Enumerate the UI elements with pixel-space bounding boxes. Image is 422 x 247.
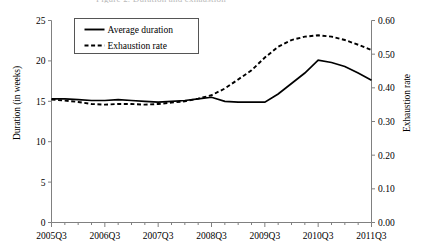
y-axis-right-tick-label: 0.20 (378, 151, 395, 161)
y-axis-right-tick-label: 0.50 (378, 50, 395, 60)
x-axis-tick-label: 2006Q3 (90, 231, 121, 241)
y-axis-left: 0510152025 (36, 16, 52, 228)
x-axis-tick-label: 2011Q3 (356, 231, 387, 241)
y-axis-left-tick-label: 25 (36, 16, 46, 26)
y-axis-left-tick-label: 10 (36, 137, 46, 147)
y-axis-right-tick-label: 0.30 (378, 117, 395, 127)
y-axis-left-tick-label: 0 (41, 218, 46, 228)
y-axis-right-tick-label: 0.40 (378, 83, 395, 93)
y-axis-right: 0.000.100.200.300.400.500.60 (372, 16, 395, 228)
x-axis-tick-label: 2005Q3 (36, 231, 67, 241)
chart-legend: Average durationExhaustion rate (75, 19, 199, 54)
x-axis-tick-label: 2010Q3 (303, 231, 334, 241)
legend-item-label: Average duration (108, 25, 174, 35)
x-axis-tick-label: 2009Q3 (250, 231, 281, 241)
y-axis-left-tick-label: 20 (36, 56, 46, 66)
chart-plot-area: 0510152025 0.000.100.200.300.400.500.60 … (0, 0, 422, 247)
y-axis-left-tick-label: 5 (41, 178, 46, 188)
y-axis-right-tick-label: 0.10 (378, 184, 395, 194)
y-axis-right-tick-label: 0.60 (378, 16, 395, 26)
x-axis-tick-label: 2008Q3 (196, 231, 227, 241)
y-axis-right-tick-label: 0.00 (378, 218, 395, 228)
x-axis: 2005Q32006Q32007Q32008Q32009Q32010Q32011… (36, 223, 387, 241)
chart-figure: Figure 2. Duration and exhaustion Durati… (0, 0, 422, 247)
x-axis-tick-label: 2007Q3 (143, 231, 174, 241)
legend-item-label: Exhaustion rate (108, 41, 167, 51)
y-axis-left-tick-label: 15 (36, 97, 46, 107)
